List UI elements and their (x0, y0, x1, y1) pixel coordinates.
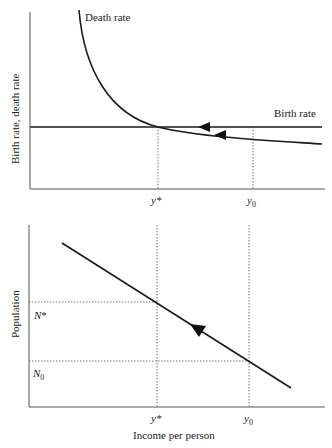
bottom-panel (29, 225, 325, 407)
death-rate-curve (79, 10, 322, 144)
death-rate-label: Death rate (85, 11, 131, 23)
nstar-sup: * (41, 309, 47, 321)
top-y-axis-label: Birth rate, death rate (9, 74, 21, 164)
population-arrow-icon (190, 324, 206, 337)
death-rate-arrow-icon (214, 130, 226, 140)
bottom-tick-y0-sub: 0 (249, 418, 253, 427)
n0-label: N0 (33, 367, 44, 382)
bottom-tick-y0: y0 (244, 412, 253, 427)
bottom-x-axis-label: Income per person (133, 429, 215, 441)
birth-rate-label: Birth rate (274, 107, 316, 119)
bottom-tick-ystar: y* (151, 412, 161, 424)
top-tick-y0-sub: 0 (252, 200, 256, 209)
n0-sub: 0 (40, 373, 44, 382)
top-tick-ystar: y* (151, 194, 161, 206)
top-panel (30, 10, 325, 189)
diagram-canvas (0, 0, 332, 448)
birth-rate-arrow-icon (198, 122, 210, 132)
nstar-label: N* (34, 309, 47, 321)
population-line (62, 243, 291, 388)
bottom-y-axis-label: Population (9, 290, 21, 338)
top-tick-y0: y0 (247, 194, 256, 209)
